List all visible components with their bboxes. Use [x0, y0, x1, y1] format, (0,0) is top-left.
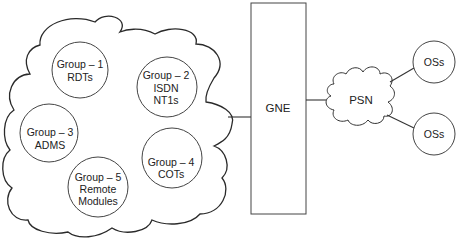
- group-2-label: Group – 2: [143, 69, 190, 81]
- psn-node: PSN: [326, 67, 394, 125]
- os-2-label: OSs: [424, 128, 444, 140]
- group-3-label: Group – 3: [27, 126, 74, 138]
- group-2-node: Group – 2 ISDN NT1s: [137, 57, 197, 117]
- group-2-type: ISDN: [153, 82, 178, 94]
- group-5-type-2: Modules: [78, 195, 118, 207]
- link-psn-os-1: [390, 68, 414, 82]
- diagram-canvas: Group – 1 RDTs Group – 2 ISDN NT1s Group…: [0, 0, 460, 240]
- group-5-label: Group – 5: [75, 171, 122, 183]
- gne-node: GNE: [251, 3, 306, 214]
- group-5-type: Remote: [80, 183, 117, 195]
- group-1-type: RDTs: [67, 71, 93, 83]
- group-4-node: Group – 4 COTs: [142, 128, 202, 188]
- group-3-node: Group – 3 ADMS: [20, 104, 78, 162]
- os-node-1: OSs: [413, 41, 455, 83]
- group-3-type: ADMS: [35, 139, 65, 151]
- psn-label: PSN: [349, 94, 373, 106]
- group-5-node: Group – 5 Remote Modules: [68, 157, 128, 217]
- group-1-node: Group – 1 RDTs: [52, 42, 108, 98]
- group-1-label: Group – 1: [57, 58, 104, 70]
- os-node-2: OSs: [413, 113, 455, 155]
- group-2-type-2: NT1s: [153, 94, 178, 106]
- group-4-label: Group – 4: [148, 156, 195, 168]
- gne-label: GNE: [266, 102, 291, 114]
- link-psn-os-2: [387, 115, 414, 128]
- group-4-type: COTs: [158, 168, 184, 180]
- os-1-label: OSs: [424, 56, 444, 68]
